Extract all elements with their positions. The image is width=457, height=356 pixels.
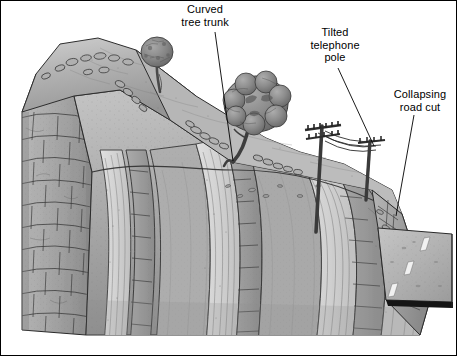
label-collapsing-road-cut: Collapsing road cut <box>383 88 457 113</box>
label-tilted-telephone-pole: Tilted telephone pole <box>289 26 381 64</box>
soil-creep-figure: Curved tree trunk Tilted telephone pole … <box>0 0 457 356</box>
label-curved-tree-trunk: Curved tree trunk <box>151 3 259 28</box>
block-diagram-illustration <box>0 0 457 356</box>
